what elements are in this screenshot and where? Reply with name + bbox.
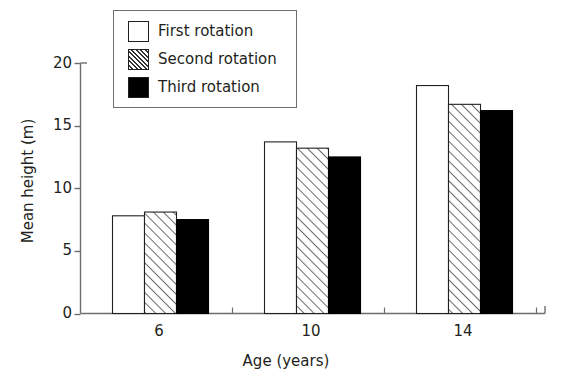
legend: First rotation Second rotation Third rot… [113, 10, 297, 108]
swatch-white-icon [128, 21, 149, 42]
bar-group-6 [113, 212, 209, 313]
bar-14-second-rotation [449, 104, 481, 313]
bar-group-container [113, 86, 513, 314]
bar-6-third-rotation [177, 220, 209, 314]
bar-14-third-rotation [481, 111, 513, 314]
legend-label-first-rotation: First rotation [158, 22, 253, 40]
bar-10-first-rotation [265, 142, 297, 314]
bar-group-10 [265, 142, 361, 314]
x-axis-title: Age (years) [0, 352, 572, 370]
legend-label-second-rotation: Second rotation [158, 50, 277, 68]
legend-item-second-rotation: Second rotation [128, 45, 296, 73]
x-tick-label-6: 6 [154, 322, 164, 340]
legend-item-third-rotation: Third rotation [128, 73, 296, 101]
y-axis-ticks [75, 64, 81, 315]
x-tick-label-10: 10 [301, 322, 320, 340]
swatch-hatched-icon [128, 49, 149, 70]
bar-chart: Mean height (m) 20 15 10 5 0 6 [0, 0, 572, 382]
bar-10-second-rotation [297, 148, 329, 313]
bar-10-third-rotation [329, 157, 361, 314]
x-tick-label-14: 14 [453, 322, 472, 340]
legend-item-first-rotation: First rotation [128, 17, 296, 45]
bar-6-second-rotation [145, 212, 177, 313]
bar-group-14 [417, 86, 513, 314]
bar-14-first-rotation [417, 86, 449, 314]
swatch-black-icon [128, 77, 149, 98]
legend-label-third-rotation: Third rotation [158, 78, 260, 96]
bar-6-first-rotation [113, 216, 145, 314]
